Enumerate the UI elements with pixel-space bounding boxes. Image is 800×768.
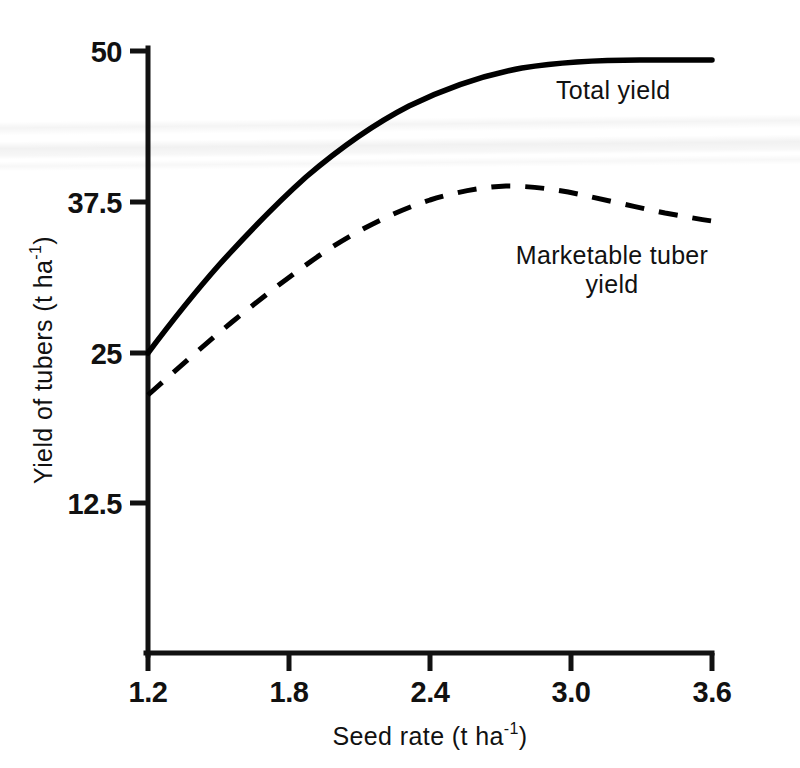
x-tick-label-2-4: 2.4	[411, 676, 450, 708]
annotation-marketable-tuber-yield-line2: yield	[586, 270, 639, 298]
y-tick-label-50: 50	[91, 36, 122, 68]
y-tick-label-12-5: 12.5	[68, 488, 123, 520]
x-tick-label-1-8: 1.8	[270, 676, 309, 708]
x-tick-label-3-0: 3.0	[552, 676, 591, 708]
svg-text:Yield of tubers (t ha-1): Yield of tubers (t ha-1)	[27, 236, 57, 484]
x-tick-label-3-6: 3.6	[693, 676, 732, 708]
annotation-marketable-tuber-yield-line1: Marketable tuber	[516, 241, 708, 269]
axes-group	[130, 48, 712, 671]
x-axis-title-tail: )	[519, 722, 528, 750]
series-group	[148, 60, 712, 395]
x-axis-title: Seed rate (t ha-1)	[332, 720, 527, 750]
y-tick-labels: 50 37.5 25 12.5	[68, 36, 123, 520]
x-axis-title-superscript: -1	[504, 720, 519, 737]
y-axis-title: Yield of tubers (t ha-1)	[27, 236, 57, 484]
y-axis-title-superscript: -1	[27, 245, 44, 260]
x-tick-labels: 1.2 1.8 2.4 3.0 3.6	[129, 676, 732, 708]
series-annotations: Total yield Marketable tuber yield	[516, 76, 708, 298]
svg-text:Seed rate (t ha-1): Seed rate (t ha-1)	[332, 720, 527, 750]
x-axis-title-base: Seed rate (t ha	[332, 722, 503, 750]
y-axis-title-tail: )	[29, 236, 57, 245]
y-tick-label-37-5: 37.5	[68, 187, 123, 219]
y-axis-title-base: Yield of tubers (t ha	[29, 260, 57, 484]
annotation-total-yield: Total yield	[556, 76, 670, 104]
x-tick-label-1-2: 1.2	[129, 676, 168, 708]
y-tick-label-25: 25	[91, 338, 123, 370]
